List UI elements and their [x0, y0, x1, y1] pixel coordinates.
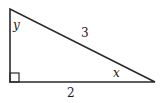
angle-label-x: x [113, 66, 120, 80]
hypotenuse-label: 3 [81, 26, 89, 40]
angle-label-y: y [12, 18, 20, 32]
right-angle-marker [10, 73, 19, 82]
triangle-outline [10, 9, 155, 82]
triangle-diagram: y 3 x 2 [0, 0, 165, 103]
base-label: 2 [67, 86, 75, 100]
